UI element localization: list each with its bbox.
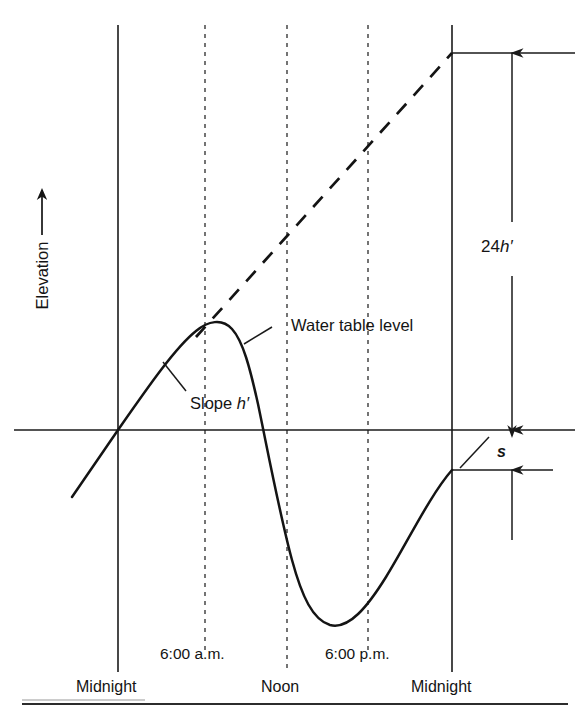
slope-label-symbol: h [237,394,246,412]
water-table-diagram-canvas [0,0,575,720]
slope-label-prime: ′ [246,394,249,412]
chart-ordinates [118,25,452,672]
x-tick-label-midnight-right: Midnight [411,679,471,695]
x-tick-label-noon: Noon [261,679,299,695]
figure-root: Elevation Water table level Slope h′ 24h… [0,0,575,720]
dimension-24h-label: 24h′ [481,238,513,255]
dimension-24h-symbol: h [500,237,509,256]
slope-label: Slope h′ [190,395,249,412]
water-table-level-leader [244,327,272,344]
dimension-s-label: s [497,444,506,460]
slope-label-prefix: Slope [190,394,237,412]
water-table-level-label: Water table level [291,317,413,334]
y-axis-title: Elevation [34,242,51,310]
dimension-24h-number: 24 [481,237,500,256]
dimension-s [507,425,516,540]
s-leader [460,437,489,468]
x-tick-label-midnight-left: Midnight [76,679,136,695]
y-axis-title-group: Elevation [27,173,57,323]
x-tick-label-6pm: 6:00 p.m. [325,646,390,662]
slope-projection-dashed-line [196,53,452,337]
x-tick-label-6am: 6:00 a.m. [160,646,225,662]
slope-leader [163,362,186,391]
water-table-level-curve [72,322,452,626]
dimension-24h-prime: ′ [509,237,512,256]
up-arrow-icon [35,187,49,235]
